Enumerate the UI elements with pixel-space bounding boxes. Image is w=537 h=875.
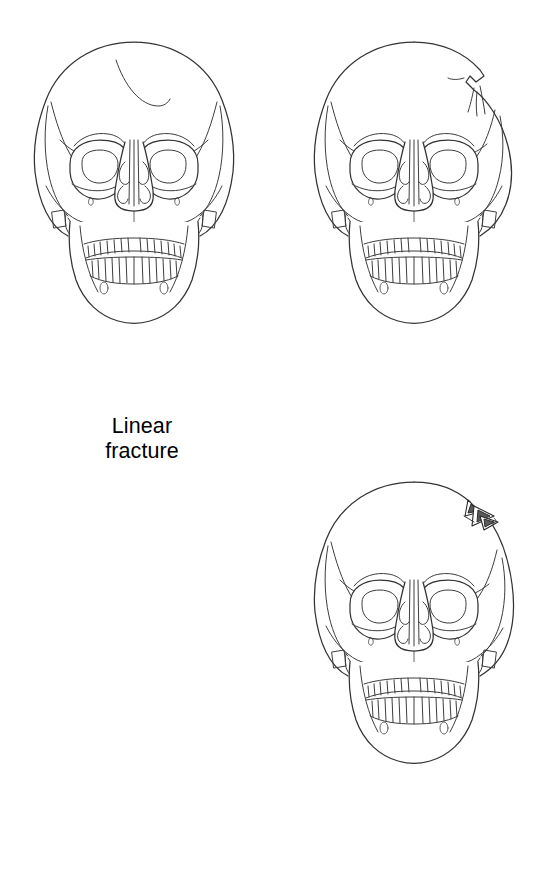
caption-line-1: Linear (16, 414, 268, 439)
caption-linear-fracture: Linear fracture (16, 414, 268, 464)
skull-diagram-linear (8, 36, 260, 336)
panel-comminuted-fracture: Comminuted fracture (288, 476, 537, 821)
skull-diagram-depressed (288, 36, 537, 336)
caption-line-2: fracture (16, 439, 268, 464)
panel-linear-fracture: Linear fracture (8, 36, 260, 381)
comminuted-bone-fragments (464, 500, 498, 530)
skull-fracture-figure: Linear fracture (0, 0, 537, 875)
skull-diagram-comminuted (288, 476, 537, 776)
panel-depressed-fracture: Depressed fracture (288, 36, 537, 381)
